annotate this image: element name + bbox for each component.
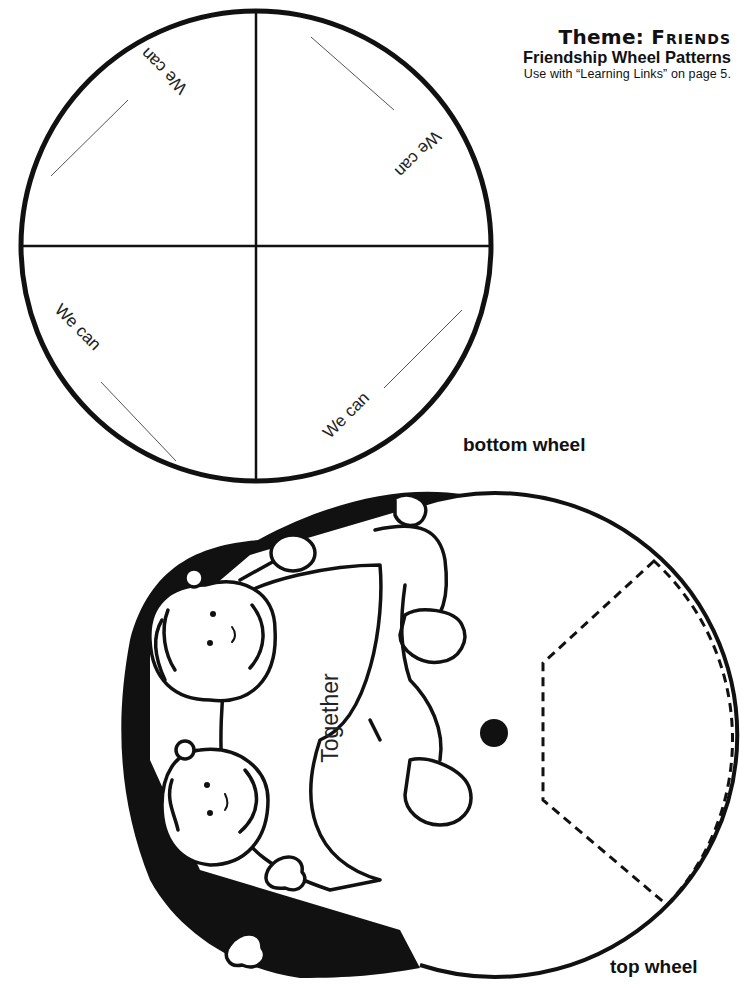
top-wheel-label: top wheel — [610, 956, 698, 978]
pivot-hole — [480, 719, 508, 747]
top-wheel-caption: Together — [317, 673, 343, 763]
top-wheel: Together — [0, 0, 745, 988]
